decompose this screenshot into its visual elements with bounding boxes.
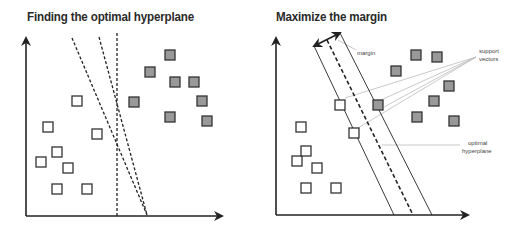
class-a-square	[52, 147, 62, 157]
class-a-square	[52, 184, 62, 194]
class-a-points	[292, 100, 359, 193]
class-b-square	[429, 96, 439, 106]
candidate-line	[99, 37, 147, 215]
class-a-square	[296, 122, 306, 132]
class-a-square	[292, 156, 302, 166]
class-b-square	[129, 97, 139, 107]
class-b-square	[373, 100, 383, 110]
class-b-square	[197, 96, 207, 106]
class-a-square	[43, 122, 53, 132]
class-b-square	[165, 112, 175, 122]
class-b-square	[165, 50, 175, 60]
class-b-square	[449, 116, 459, 126]
support-vectors-label: support vectors	[479, 47, 499, 63]
class-a-square	[335, 100, 345, 110]
class-b-square	[391, 66, 401, 76]
class-b-square	[444, 81, 454, 91]
class-b-points	[373, 50, 459, 126]
class-a-square	[92, 129, 102, 139]
class-a-square	[72, 96, 82, 106]
class-a-square	[301, 146, 311, 156]
class-a-square	[349, 128, 359, 138]
double-arrow-icon	[314, 33, 340, 46]
class-a-square	[36, 157, 46, 167]
class-a-square	[301, 183, 311, 193]
class-a-square	[82, 184, 92, 194]
class-b-square	[189, 77, 199, 87]
svm-diagram	[0, 0, 514, 232]
optimal-hyperplane-label: optimal hyperplane	[462, 139, 492, 155]
class-a-square	[331, 183, 341, 193]
class-a-square	[312, 163, 322, 173]
margin-double-arrow	[314, 33, 340, 46]
margin-label: margin	[357, 49, 375, 57]
right-panel	[276, 33, 476, 215]
class-b-square	[412, 112, 422, 122]
class-a-square	[63, 163, 73, 173]
class-a-points	[36, 96, 102, 194]
class-b-square	[170, 77, 180, 87]
class-b-square	[145, 67, 155, 77]
class-b-square	[432, 52, 442, 62]
left-panel	[26, 33, 222, 216]
class-b-points	[129, 50, 212, 126]
class-b-square	[202, 116, 212, 126]
class-b-square	[411, 50, 421, 60]
